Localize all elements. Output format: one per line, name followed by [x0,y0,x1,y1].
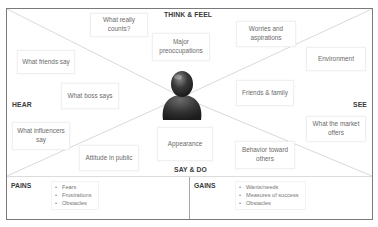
note-text: What really counts? [91,16,147,33]
note-text: Appearance [168,140,202,149]
note-friends-family: Friends & family [236,80,294,106]
note-text: Friends & family [242,89,288,98]
note-text: What friends say [22,58,70,67]
pains-item: Fears [55,183,92,191]
note-text: Environment [318,55,354,64]
note-appearance: Appearance [157,127,213,161]
gains-item: Measures of success [239,191,299,199]
empathy-map-frame: THINK & FEEL HEAR SEE SAY & DO What real… [6,8,373,220]
note-major-preoccupations: Major preoccupations [152,33,210,61]
note-what-boss-says: What boss says [61,83,119,109]
note-what-friends-say: What friends say [17,50,75,74]
section-label-hear: HEAR [12,101,32,108]
note-text: What the market offers [307,120,365,137]
note-what-market-offers: What the market offers [306,116,366,142]
note-what-influencers-say: What influencers say [12,122,70,150]
pains-title: PAINS [11,182,31,189]
gains-item: Wants/needs [239,183,299,191]
pains-item: Frustrations [55,191,92,199]
pains-section: PAINS Fears Frustrations Obstacles [7,177,190,219]
note-text: Behavior toward others [236,146,294,163]
gains-section: GAINS Wants/needs Measures of success Ob… [190,177,372,219]
note-text: What boss says [67,92,112,101]
note-behavior-toward-others: Behavior toward others [235,141,295,169]
gains-item: Obstacles [239,199,299,207]
note-environment: Environment [306,47,366,71]
note-text: Attitude in public [86,154,133,163]
note-worries-aspirations: Worries and aspirations [236,21,296,47]
section-label-think-feel: THINK & FEEL [164,11,212,18]
note-attitude-in-public: Attitude in public [79,145,139,171]
person-icon [157,68,207,122]
note-text: Major preoccupations [153,38,209,55]
note-what-really-counts: What really counts? [90,13,148,37]
note-text: Worries and aspirations [237,25,295,42]
section-label-say-do: SAY & DO [174,166,207,173]
section-label-see: SEE [353,101,367,108]
gains-list: Wants/needs Measures of success Obstacle… [235,181,306,210]
pains-list: Fears Frustrations Obstacles [51,181,99,210]
pains-item: Obstacles [55,199,92,207]
note-text: What influencers say [13,127,69,144]
pains-gains-panel: PAINS Fears Frustrations Obstacles GAINS… [7,176,372,219]
gains-title: GAINS [194,182,216,189]
